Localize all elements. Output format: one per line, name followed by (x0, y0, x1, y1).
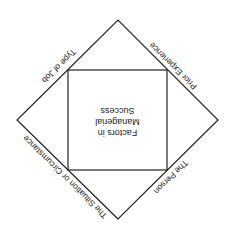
center-text-line-2: Managerial (95, 117, 140, 127)
center-text-line-1: Factors in (98, 128, 138, 138)
edge-label-type-of-job: Type of Job (40, 47, 78, 85)
diagram-canvas: Factors in Managerial Success The Person… (0, 0, 226, 242)
edge-label-the-person: The Person (152, 158, 190, 196)
center-text-line-3: Success (100, 106, 135, 116)
edge-label-prior-experience: Prior Experience (147, 40, 199, 91)
edge-label-situation: The Situation or Circumstance (20, 133, 109, 220)
